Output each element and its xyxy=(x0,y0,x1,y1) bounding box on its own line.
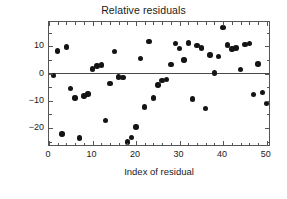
data-point xyxy=(107,81,112,86)
data-point xyxy=(216,54,221,59)
y-axis-tick xyxy=(49,60,52,61)
x-tick-label: 20 xyxy=(130,149,140,159)
data-point xyxy=(251,92,256,97)
data-point xyxy=(199,45,204,50)
x-axis-tick xyxy=(145,143,146,146)
x-axis-tick-top xyxy=(162,22,163,25)
y-axis-tick xyxy=(49,114,52,115)
data-point xyxy=(142,104,147,109)
data-point xyxy=(146,39,151,44)
zero-reference-line xyxy=(49,73,269,75)
data-point xyxy=(99,62,104,67)
y-axis-tick-right xyxy=(267,60,270,61)
x-axis-tick-top xyxy=(101,22,102,25)
x-axis-tick-top xyxy=(258,22,259,25)
x-axis-tick xyxy=(84,143,85,146)
x-axis-tick xyxy=(153,143,154,146)
data-point xyxy=(238,67,243,72)
x-axis-tick xyxy=(232,143,233,146)
x-axis-tick xyxy=(66,143,67,146)
y-axis-tick-right xyxy=(267,87,270,88)
y-axis-tick-labels: 100−10−20 xyxy=(0,21,44,146)
data-point xyxy=(112,49,117,54)
x-axis-tick xyxy=(241,143,242,146)
x-axis-tick xyxy=(223,141,224,145)
x-axis-tick-top xyxy=(136,22,137,26)
x-axis-tick xyxy=(206,143,207,146)
data-point xyxy=(186,40,191,45)
x-axis-tick-top xyxy=(249,22,250,25)
data-point xyxy=(77,135,82,140)
data-point xyxy=(247,41,252,46)
x-axis-tick xyxy=(249,143,250,146)
x-axis-label: Index of residual xyxy=(48,166,270,177)
data-point xyxy=(64,44,69,49)
x-axis-tick-top xyxy=(214,22,215,25)
y-tick-label: 0 xyxy=(39,68,44,78)
data-point xyxy=(59,131,64,136)
x-axis-tick-top xyxy=(110,22,111,25)
x-axis-tick-top xyxy=(188,22,189,25)
x-tick-label: 30 xyxy=(174,149,184,159)
x-axis-tick-top xyxy=(206,22,207,25)
x-axis-tick xyxy=(188,143,189,146)
x-axis-tick xyxy=(162,143,163,146)
data-point xyxy=(68,86,73,91)
x-axis-tick-top xyxy=(119,22,120,25)
y-axis-tick-right xyxy=(267,142,270,143)
x-axis-tick xyxy=(93,141,94,145)
y-axis-tick-right xyxy=(265,128,269,129)
x-tick-label: 40 xyxy=(217,149,227,159)
x-axis-tick-top xyxy=(153,22,154,25)
data-point xyxy=(103,118,108,123)
x-axis-tick xyxy=(58,143,59,146)
x-tick-label: 10 xyxy=(87,149,97,159)
data-point xyxy=(181,57,186,62)
x-axis-tick-top xyxy=(241,22,242,25)
data-point xyxy=(55,48,60,53)
data-point xyxy=(168,62,173,67)
plot-inner xyxy=(49,22,269,145)
data-point xyxy=(255,61,260,66)
data-point xyxy=(164,77,169,82)
chart-title: Relative residuals xyxy=(0,4,287,16)
data-point xyxy=(264,101,269,106)
x-axis-tick-top xyxy=(171,22,172,25)
chart-figure: Relative residuals 100−10−20 Index of re… xyxy=(0,0,287,199)
data-point xyxy=(155,82,160,87)
x-axis-tick-top xyxy=(93,22,94,26)
y-axis-tick xyxy=(49,101,53,102)
data-point xyxy=(129,135,134,140)
data-point xyxy=(212,70,217,75)
y-axis-tick-right xyxy=(267,114,270,115)
y-axis-tick xyxy=(49,142,52,143)
y-axis-tick-right xyxy=(265,46,269,47)
y-tick-label: −10 xyxy=(29,95,44,105)
data-point xyxy=(151,95,156,100)
y-tick-label: −20 xyxy=(29,122,44,132)
x-axis-tick xyxy=(171,143,172,146)
x-tick-label: 0 xyxy=(45,149,50,159)
x-axis-tick xyxy=(180,141,181,145)
x-axis-tick xyxy=(101,143,102,146)
y-axis-tick xyxy=(49,46,53,47)
y-axis-tick-right xyxy=(265,101,269,102)
y-axis-tick-right xyxy=(267,33,270,34)
data-point xyxy=(203,106,208,111)
x-axis-tick-top xyxy=(66,22,67,25)
x-axis-tick xyxy=(197,143,198,146)
x-axis-tick-top xyxy=(145,22,146,25)
data-point xyxy=(133,124,138,129)
data-point xyxy=(120,75,125,80)
data-point xyxy=(72,95,77,100)
data-point xyxy=(85,91,90,96)
x-axis-tick-top xyxy=(127,22,128,25)
x-axis-tick-top xyxy=(223,22,224,26)
x-axis-tick xyxy=(75,143,76,146)
data-point xyxy=(260,90,265,95)
x-axis-tick xyxy=(214,143,215,146)
data-point xyxy=(233,45,238,50)
y-axis-tick-right xyxy=(265,74,269,75)
x-tick-label: 50 xyxy=(261,149,271,159)
x-axis-tick xyxy=(119,143,120,146)
